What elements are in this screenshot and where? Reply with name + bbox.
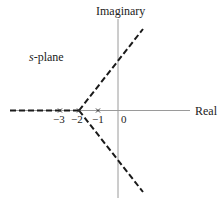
imaginary-axis-label: Imaginary [96,5,145,17]
tick-label-neg1: −1 [92,114,104,125]
tick-label-neg3: −3 [53,114,65,125]
locus-branch-upper [79,29,143,111]
tick-label-0: 0 [121,114,127,125]
tick-label-neg2: −2 [71,114,83,125]
plane-text: -plane [34,50,64,64]
s-plane-diagram [0,0,224,206]
s-plane-label: s-plane [29,51,64,63]
locus-branch-lower [79,111,143,193]
real-axis-label: Real [195,105,217,117]
